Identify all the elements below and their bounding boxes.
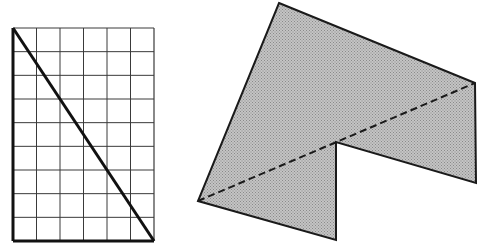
grid-rectangle — [13, 28, 154, 241]
figure-canvas — [0, 0, 485, 252]
polygon-shape — [198, 3, 476, 240]
shaded-polygon — [198, 3, 476, 240]
